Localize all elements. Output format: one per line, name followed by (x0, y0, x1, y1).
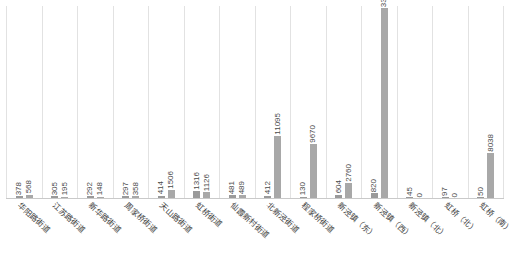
bar-slot: 195 (61, 6, 68, 198)
bar-value-label: 97 (441, 187, 449, 196)
bar[interactable] (310, 144, 317, 198)
bar-value-label: 0 (416, 193, 424, 197)
bar-group: 6042760 (327, 6, 362, 198)
bar[interactable] (345, 183, 352, 198)
x-axis-labels: 华阳路街道江苏路街道新华路街道周家桥街道天山路街道虹桥街道仙霞新村街道北新泾街道… (6, 199, 504, 263)
category-column: 1309670 (291, 6, 327, 198)
category-column: 970 (433, 6, 469, 198)
x-tick: 虹桥（北） (433, 199, 469, 263)
category-column: 292148 (78, 6, 114, 198)
bar-slot: 358 (132, 6, 139, 198)
bar[interactable] (203, 192, 210, 198)
bar[interactable] (487, 153, 494, 198)
bar[interactable] (132, 196, 139, 198)
category-column: 41211095 (256, 6, 292, 198)
bar-chart: 3785683051952921482973584141506131611264… (0, 0, 510, 264)
bar[interactable] (335, 195, 342, 198)
bar[interactable] (264, 196, 271, 198)
x-tick-label: 虹桥（南） (478, 201, 510, 234)
bar[interactable] (239, 195, 246, 198)
bar-slot: 9670 (310, 6, 317, 198)
plot-area: 3785683051952921482973584141506131611264… (6, 6, 504, 199)
bar-value-label: 820 (370, 179, 378, 192)
bar-value-label: 9670 (309, 125, 317, 143)
category-column: 82033937 (362, 6, 398, 198)
bar[interactable] (51, 196, 58, 198)
bar-group: 82033937 (362, 6, 397, 198)
bar-slot: 0 (416, 6, 423, 198)
bar[interactable] (381, 8, 388, 198)
x-tick: 新泾镇（东） (326, 199, 362, 263)
bar-slot: 1316 (193, 6, 200, 198)
bar-value-label: 568 (25, 180, 33, 193)
bar-value-label: 378 (15, 182, 23, 195)
bar-value-label: 2760 (345, 164, 353, 182)
bar-slot: 45 (406, 6, 413, 198)
bar-value-label: 1506 (167, 171, 175, 189)
category-column: 13161126 (185, 6, 221, 198)
x-tick: 江苏路街道 (42, 199, 78, 263)
bar[interactable] (26, 195, 33, 198)
bar-slot: 414 (158, 6, 165, 198)
bar[interactable] (158, 196, 165, 198)
bar[interactable] (371, 193, 378, 198)
category-column: 450 (398, 6, 434, 198)
bar-slot: 11095 (274, 6, 281, 198)
bar-value-label: 358 (132, 182, 140, 195)
bar-group: 297358 (114, 6, 149, 198)
bar-slot: 33937 (381, 6, 388, 198)
bar[interactable] (122, 196, 129, 198)
bar[interactable] (229, 195, 236, 198)
bar-group: 41211095 (256, 6, 291, 198)
bar[interactable] (97, 197, 104, 199)
bar[interactable] (168, 190, 175, 198)
bar[interactable] (406, 197, 413, 199)
bar-slot: 820 (371, 6, 378, 198)
bar[interactable] (274, 136, 281, 198)
bar-slot: 305 (51, 6, 58, 198)
bar-value-label: 130 (299, 182, 307, 195)
bar-value-label: 45 (406, 187, 414, 196)
x-tick: 天山路街道 (148, 199, 184, 263)
bar-slot: 97 (442, 6, 449, 198)
bar-slot: 50 (477, 6, 484, 198)
bar[interactable] (193, 191, 200, 198)
x-tick: 程家桥街道 (291, 199, 327, 263)
bar[interactable] (61, 197, 68, 199)
bar[interactable] (300, 197, 307, 199)
bar-slot: 0 (452, 6, 459, 198)
category-column: 6042760 (327, 6, 363, 198)
bar-value-label: 8038 (487, 134, 495, 152)
x-tick: 新华路街道 (77, 199, 113, 263)
bar-slot: 292 (87, 6, 94, 198)
x-tick: 华阳路街道 (6, 199, 42, 263)
bar-slot: 604 (335, 6, 342, 198)
bar-group: 292148 (78, 6, 113, 198)
bar-group: 378568 (7, 6, 42, 198)
bar-slot: 1126 (203, 6, 210, 198)
bar[interactable] (442, 197, 449, 199)
category-column: 305195 (43, 6, 79, 198)
bar-slot: 2760 (345, 6, 352, 198)
bar-slot: 378 (16, 6, 23, 198)
bar-group: 305195 (43, 6, 78, 198)
bar-value-label: 412 (264, 181, 272, 194)
bar-value-label: 292 (86, 182, 94, 195)
x-tick: 虹桥（南） (469, 199, 505, 263)
bar-slot: 481 (229, 6, 236, 198)
bar[interactable] (16, 196, 23, 198)
bar-slot: 1506 (168, 6, 175, 198)
bar[interactable] (87, 196, 94, 198)
bar-slot: 568 (26, 6, 33, 198)
bar-value-label: 1316 (193, 172, 201, 190)
bar-group: 508038 (469, 6, 504, 198)
bar-value-label: 0 (451, 193, 459, 197)
bar-value-label: 297 (122, 182, 130, 195)
bar-group: 13161126 (185, 6, 220, 198)
bar-value-label: 1126 (203, 174, 211, 191)
bar-slot: 8038 (487, 6, 494, 198)
bar[interactable] (477, 197, 484, 199)
bar-value-label: 11095 (274, 113, 282, 135)
bar-group: 481489 (220, 6, 255, 198)
bar-value-label: 481 (228, 181, 236, 194)
